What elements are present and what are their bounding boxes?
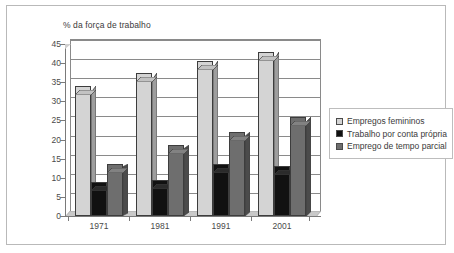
bar[interactable]	[258, 52, 274, 216]
bar-group	[197, 44, 250, 216]
bar[interactable]	[274, 166, 290, 216]
x-axis-tick-mark	[68, 216, 69, 221]
legend-item[interactable]: Emprego de tempo parcial	[336, 142, 447, 151]
legend-swatch-icon	[336, 143, 343, 150]
bar-top-face	[152, 175, 168, 180]
bar-group	[258, 44, 311, 216]
x-axis-tick-label: 2001	[273, 221, 292, 231]
bar-front-face	[168, 145, 184, 216]
bar[interactable]	[168, 145, 184, 216]
bar[interactable]	[290, 117, 306, 216]
bar[interactable]	[136, 73, 152, 216]
bar-top-face	[229, 127, 245, 132]
bar[interactable]	[107, 164, 123, 216]
bar[interactable]	[197, 61, 213, 216]
bar-side-face	[184, 145, 189, 216]
y-axis-tick-labels: 051015202530354045	[37, 44, 61, 216]
bar-top-face	[213, 159, 229, 164]
x-axis-line	[65, 216, 321, 217]
chart-legend: Empregos femininosTrabalho por conta pró…	[329, 108, 453, 159]
x-axis-labels: 1971198119912001	[65, 221, 321, 235]
bar[interactable]	[91, 182, 107, 216]
legend-item[interactable]: Empregos femininos	[336, 117, 447, 126]
x-axis-tick-label: 1991	[212, 221, 231, 231]
x-axis-tick-mark	[129, 216, 130, 221]
y-axis-depth-face	[65, 44, 71, 216]
bar-front-face	[197, 61, 213, 216]
bar-side-face	[306, 117, 311, 216]
chart-title: % da força de trabalho	[63, 20, 151, 30]
bar-top-face	[75, 81, 91, 86]
x-axis-tick-mark	[251, 216, 252, 221]
bar-top-face	[258, 47, 274, 52]
bar-top-face	[197, 56, 213, 61]
bar-front-face	[75, 86, 91, 216]
bar[interactable]	[75, 86, 91, 216]
x-axis-tick-label: 1981	[151, 221, 170, 231]
plot-area	[65, 44, 316, 216]
legend-swatch-icon	[336, 118, 343, 125]
bar-side-face	[245, 132, 250, 216]
legend-item-label: Emprego de tempo parcial	[347, 142, 447, 151]
bar[interactable]	[152, 180, 168, 216]
bar-top-face	[136, 68, 152, 73]
x-axis-tick-mark	[190, 216, 191, 221]
legend-item[interactable]: Trabalho por conta própria	[336, 130, 447, 139]
legend-item-label: Empregos femininos	[347, 117, 424, 126]
chart-figure: % da força de trabalho 05101520253035404…	[6, 5, 446, 245]
legend-swatch-icon	[336, 130, 343, 137]
x-axis-tick-label: 1971	[90, 221, 109, 231]
bar-group	[136, 44, 189, 216]
bar-top-face	[274, 161, 290, 166]
bar-top-face	[91, 177, 107, 182]
bar-top-face	[168, 140, 184, 145]
bar-top-face	[107, 159, 123, 164]
bar-front-face	[229, 132, 245, 216]
bar-top-face	[290, 112, 306, 117]
bar-front-face	[136, 73, 152, 216]
bar-group	[75, 44, 128, 216]
grid-line	[71, 40, 320, 41]
bar[interactable]	[213, 164, 229, 216]
bar[interactable]	[229, 132, 245, 216]
bar-front-face	[258, 52, 274, 216]
legend-item-label: Trabalho por conta própria	[347, 130, 447, 139]
bar-front-face	[290, 117, 306, 216]
x-axis-tick-mark	[309, 216, 310, 221]
